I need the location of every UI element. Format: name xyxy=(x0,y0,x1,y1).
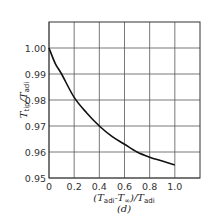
data-curve xyxy=(49,48,175,165)
panel-label: (d) xyxy=(117,203,131,214)
x-tick-label: 0.2 xyxy=(67,181,82,192)
y-tick-label: 1.00 xyxy=(25,43,46,54)
x-tick-label: 0 xyxy=(46,181,52,192)
chart: 00.20.40.60.81.0 0.950.960.970.980.991.0… xyxy=(0,0,211,220)
x-tick-label: 1.0 xyxy=(167,181,182,192)
y-tick-label: 0.97 xyxy=(25,121,46,132)
x-tick-label: 0.6 xyxy=(117,181,132,192)
y-tick-label: 0.95 xyxy=(25,173,46,184)
x-tick-labels: 00.20.40.60.81.0 xyxy=(46,181,182,192)
y-tick-label: 0.99 xyxy=(25,69,46,80)
grid-lines xyxy=(49,22,200,178)
x-tick-label: 0.8 xyxy=(142,181,157,192)
y-tick-label: 0.96 xyxy=(25,147,46,158)
x-tick-label: 0.4 xyxy=(92,181,107,192)
